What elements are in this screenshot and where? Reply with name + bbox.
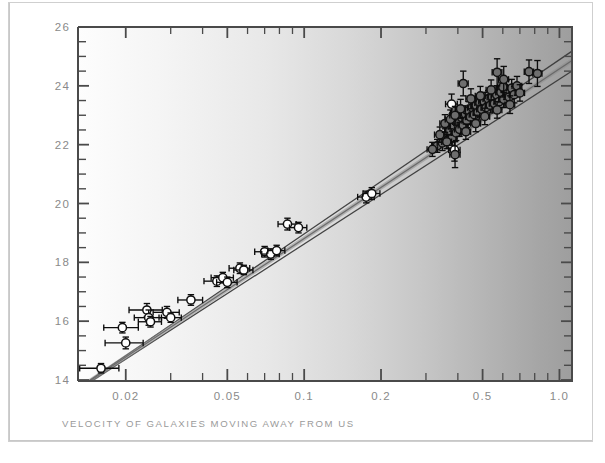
x-tick-label: 0.02 bbox=[112, 390, 139, 402]
y-axis-tick-labels: 14161820222426 bbox=[24, 0, 70, 463]
x-tick-label: 0.1 bbox=[294, 390, 314, 402]
y-tick-label: 26 bbox=[24, 21, 70, 33]
hubble-diagram-figure: 14161820222426 0.020.050.10.20.51.0 DIST… bbox=[0, 0, 605, 463]
y-tick-label: 16 bbox=[24, 315, 70, 327]
y-tick-label: 14 bbox=[24, 374, 70, 386]
x-tick-label: 0.5 bbox=[473, 390, 493, 402]
y-tick-label: 24 bbox=[24, 80, 70, 92]
x-tick-label: 0.05 bbox=[214, 390, 241, 402]
y-tick-label: 18 bbox=[24, 256, 70, 268]
x-axis-title: VELOCITY OF GALAXIES MOVING AWAY FROM US bbox=[62, 418, 355, 429]
y-tick-label: 20 bbox=[24, 198, 70, 210]
x-tick-label: 1.0 bbox=[550, 390, 570, 402]
y-tick-label: 22 bbox=[24, 139, 70, 151]
x-tick-label: 0.2 bbox=[371, 390, 391, 402]
